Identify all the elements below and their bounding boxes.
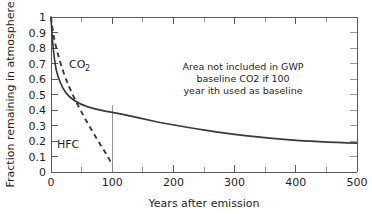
x-tick-label: 0 [48,176,55,189]
x-tick-label: 300 [224,176,245,189]
y-tick-label: 0.3 [29,120,47,133]
x-tick-label: 200 [163,176,184,189]
x-axis-title: Years after emission [148,197,260,210]
y-axis-title: Fraction remaining in atmosphere [4,1,17,187]
y-tick-label: 0.9 [29,27,47,40]
co2-series-label-subscript: 2 [85,64,90,73]
y-tick-label: 0.1 [29,151,47,164]
gwp-note-line-3: year ith used as baseline [183,85,302,96]
y-axis-tick-labels: 0 0.1 0.2 0.3 0.4 0.5 0.6 0.7 0.8 0.9 1 [29,11,47,179]
x-tick-label: 500 [347,176,368,189]
gwp-note-line-2: baseline CO2 if 100 [196,73,289,84]
gwp-note-line-1: Area not included in GWP [182,61,303,72]
x-tick-label: 100 [102,176,123,189]
chart-figure: CO 2 HFC Area not included in GWP baseli… [0,0,372,214]
y-tick-label: 1 [39,11,46,24]
co2-hfc-decay-chart: CO 2 HFC Area not included in GWP baseli… [0,0,372,214]
y-tick-label: 0.4 [29,104,47,117]
y-tick-label: 0.5 [29,89,47,102]
y-tick-label: 0 [39,166,46,179]
y-tick-label: 0.2 [29,135,47,148]
gwp-note-annotation: Area not included in GWP baseline CO2 if… [182,61,303,96]
x-axis-tick-labels: 0 100 200 300 400 500 [48,176,368,189]
co2-series-label-text: CO [69,58,86,71]
x-tick-label: 400 [285,176,306,189]
y-tick-label: 0.8 [29,42,47,55]
y-tick-label: 0.7 [29,58,47,71]
y-tick-label: 0.6 [29,73,47,86]
hfc-series-label: HFC [57,138,80,151]
